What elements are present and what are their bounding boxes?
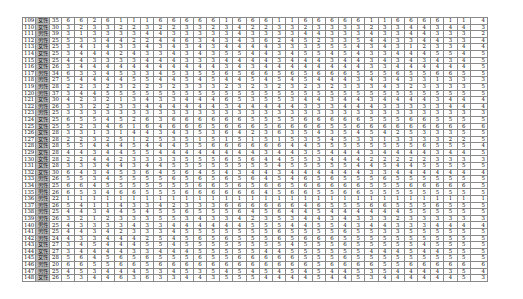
value-cell[interactable]: 2 <box>114 24 127 31</box>
value-cell[interactable]: 5 <box>418 209 431 216</box>
value-cell[interactable]: 1 <box>141 196 154 203</box>
value-cell[interactable]: 5 <box>207 255 220 262</box>
row-id-cell[interactable]: 139 <box>23 215 36 222</box>
value-cell[interactable]: 4 <box>193 169 206 176</box>
value-cell[interactable]: 4 <box>352 50 365 57</box>
value-cell[interactable]: 6 <box>352 182 365 189</box>
value-cell[interactable]: 3 <box>418 103 431 110</box>
value-cell[interactable]: 6 <box>207 116 220 123</box>
value-cell[interactable]: 3 <box>391 24 404 31</box>
value-cell[interactable]: 2 <box>391 156 404 163</box>
value-cell[interactable]: 1 <box>352 196 365 203</box>
value-cell[interactable]: 4 <box>259 156 272 163</box>
value-cell[interactable]: 6 <box>259 182 272 189</box>
value-cell[interactable]: 3 <box>431 97 444 104</box>
value-cell[interactable]: 5 <box>404 189 417 196</box>
value-cell[interactable]: 1 <box>457 18 470 25</box>
value-cell[interactable]: 5 <box>88 261 101 268</box>
value-cell[interactable]: 5 <box>365 143 378 150</box>
value-cell[interactable]: 3 <box>75 110 88 117</box>
value-cell[interactable]: 6 <box>418 182 431 189</box>
value-cell[interactable]: 3 <box>259 110 272 117</box>
gender-cell[interactable]: 女性 <box>36 248 50 255</box>
row-id-cell[interactable]: 112 <box>23 37 36 44</box>
value-cell[interactable]: 5 <box>418 90 431 97</box>
value-cell[interactable]: 6 <box>273 202 286 209</box>
value-cell[interactable]: 5 <box>378 143 391 150</box>
value-cell[interactable]: 4 <box>167 64 180 71</box>
value-cell[interactable]: 4 <box>101 209 114 216</box>
value-cell[interactable]: 4 <box>391 50 404 57</box>
value-cell[interactable]: 5 <box>114 136 127 143</box>
value-cell[interactable]: 4 <box>391 77 404 84</box>
row-id-cell[interactable]: 130 <box>23 156 36 163</box>
gender-cell[interactable]: 男性 <box>36 189 50 196</box>
value-cell[interactable]: 3 <box>207 44 220 51</box>
value-cell[interactable]: 2 <box>101 136 114 143</box>
value-cell[interactable]: 4 <box>88 143 101 150</box>
value-cell[interactable]: 5 <box>88 116 101 123</box>
value-cell[interactable]: 6 <box>259 202 272 209</box>
value-cell[interactable]: 1 <box>325 196 338 203</box>
value-cell[interactable]: 5 <box>431 255 444 262</box>
value-cell[interactable]: 3 <box>431 31 444 38</box>
value-cell[interactable]: 5 <box>457 229 470 236</box>
value-cell[interactable]: 3 <box>180 50 193 57</box>
value-cell[interactable]: 4 <box>299 57 312 64</box>
value-cell[interactable]: 4 <box>404 57 417 64</box>
value-cell[interactable]: 4 <box>338 222 351 229</box>
value-cell[interactable]: 5 <box>193 209 206 216</box>
value-cell[interactable]: 2 <box>365 24 378 31</box>
value-cell[interactable]: 4 <box>404 50 417 57</box>
value-cell[interactable]: 5 <box>220 248 233 255</box>
value-cell[interactable]: 4 <box>431 222 444 229</box>
value-cell[interactable]: 5 <box>404 209 417 216</box>
value-cell[interactable]: 5 <box>352 268 365 275</box>
value-cell[interactable]: 3 <box>207 130 220 137</box>
value-cell[interactable]: 2 <box>62 83 75 90</box>
value-cell[interactable]: 3 <box>141 70 154 77</box>
age-cell[interactable]: 30 <box>50 97 62 104</box>
value-cell[interactable]: 4 <box>431 268 444 275</box>
row-id-cell[interactable]: 119 <box>23 83 36 90</box>
value-cell[interactable]: 4 <box>167 235 180 242</box>
row-id-cell[interactable]: 127 <box>23 136 36 143</box>
value-cell[interactable]: 4 <box>127 50 140 57</box>
value-cell[interactable]: 5 <box>299 156 312 163</box>
value-cell[interactable]: 4 <box>418 50 431 57</box>
value-cell[interactable]: 4 <box>378 37 391 44</box>
value-cell[interactable]: 4 <box>457 169 470 176</box>
value-cell[interactable]: 4 <box>391 268 404 275</box>
age-cell[interactable]: 28 <box>50 83 62 90</box>
value-cell[interactable]: 4 <box>365 77 378 84</box>
value-cell[interactable]: 4 <box>286 64 299 71</box>
value-cell[interactable]: 2 <box>470 31 487 38</box>
value-cell[interactable]: 5 <box>207 90 220 97</box>
value-cell[interactable]: 5 <box>325 255 338 262</box>
value-cell[interactable]: 3 <box>127 248 140 255</box>
value-cell[interactable]: 5 <box>167 163 180 170</box>
value-cell[interactable]: 6 <box>207 18 220 25</box>
value-cell[interactable]: 3 <box>154 97 167 104</box>
gender-cell[interactable]: 男性 <box>36 196 50 203</box>
value-cell[interactable]: 5 <box>404 143 417 150</box>
value-cell[interactable]: 3 <box>378 169 391 176</box>
value-cell[interactable]: 4 <box>365 248 378 255</box>
value-cell[interactable]: 4 <box>154 64 167 71</box>
value-cell[interactable]: 5 <box>233 156 246 163</box>
value-cell[interactable]: 6 <box>167 116 180 123</box>
value-cell[interactable]: 3 <box>127 275 140 282</box>
value-cell[interactable]: 3 <box>418 215 431 222</box>
value-cell[interactable]: 4 <box>193 275 206 282</box>
row-id-cell[interactable]: 126 <box>23 130 36 137</box>
value-cell[interactable]: 2 <box>141 136 154 143</box>
value-cell[interactable]: 6 <box>470 261 487 268</box>
value-cell[interactable]: 3 <box>391 31 404 38</box>
value-cell[interactable]: 3 <box>88 31 101 38</box>
value-cell[interactable]: 1 <box>88 44 101 51</box>
value-cell[interactable]: 4 <box>286 222 299 229</box>
value-cell[interactable]: 3 <box>365 169 378 176</box>
value-cell[interactable]: 6 <box>193 261 206 268</box>
value-cell[interactable]: 6 <box>233 182 246 189</box>
value-cell[interactable]: 5 <box>233 163 246 170</box>
